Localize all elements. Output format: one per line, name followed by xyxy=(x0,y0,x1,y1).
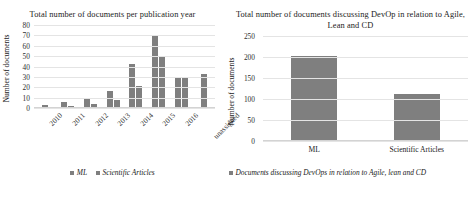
bar xyxy=(182,78,188,107)
bar xyxy=(152,36,158,107)
x-tick-cell: 2010 xyxy=(34,109,57,145)
bar xyxy=(159,57,165,107)
y-tick-label: 50 xyxy=(248,116,255,125)
legend-swatch-icon xyxy=(70,171,74,175)
legend-swatch-icon xyxy=(229,171,233,175)
y-axis-label-left: Number of documents xyxy=(0,25,14,111)
gridline xyxy=(34,25,215,26)
x-tick-cell: unassigned xyxy=(192,109,215,145)
y-tick-label: 0 xyxy=(251,137,255,146)
chart-panel-devops: Total number of documents discussing Dev… xyxy=(225,0,476,202)
y-tick-label: 0 xyxy=(26,104,30,113)
figure-container: Total number of documents per publicatio… xyxy=(0,0,476,202)
y-axis-label-right: Number of documents xyxy=(225,36,239,146)
gridline xyxy=(34,56,215,57)
plot-area-right: Number of documents 050100150200250 MLSc… xyxy=(225,36,476,146)
gridline xyxy=(34,67,215,68)
y-tick-label: 70 xyxy=(23,31,30,40)
bar xyxy=(61,102,67,107)
bar xyxy=(42,105,48,107)
bar-group xyxy=(366,36,469,140)
bar-group xyxy=(263,36,366,140)
y-tick-label: 150 xyxy=(244,74,255,83)
bar xyxy=(68,106,74,107)
bar xyxy=(291,56,337,140)
plot-canvas-left xyxy=(34,25,215,108)
x-tick-label: Scientific Articles xyxy=(366,145,469,154)
bar xyxy=(201,74,207,107)
gridline xyxy=(263,57,468,58)
y-axis-ticks-right: 050100150200250 xyxy=(239,36,257,146)
legend-label: ML xyxy=(77,168,87,178)
gridline xyxy=(263,36,468,37)
gridline xyxy=(34,98,215,99)
y-tick-label: 20 xyxy=(23,83,30,92)
chart-title-right: Total number of documents discussing Dev… xyxy=(225,9,476,31)
bar xyxy=(394,94,440,140)
y-tick-label: 200 xyxy=(244,53,255,62)
plot-area-left: Number of documents 01020304050607080 20… xyxy=(0,25,225,111)
legend-item[interactable]: ML xyxy=(70,168,87,178)
chart-title-left: Total number of documents per publicatio… xyxy=(0,9,225,20)
gridline xyxy=(34,77,215,78)
y-tick-label: 40 xyxy=(23,62,30,71)
bar xyxy=(84,98,90,107)
gridline xyxy=(263,78,468,79)
bar xyxy=(136,86,142,107)
bar-series-right xyxy=(263,36,468,140)
x-tick-cell: 2015 xyxy=(147,109,170,145)
legend-item[interactable]: Documents discussing DevOps in relation … xyxy=(229,168,426,178)
gridline xyxy=(263,120,468,121)
y-tick-label: 30 xyxy=(23,72,30,81)
chart-panel-publication-year: Total number of documents per publicatio… xyxy=(0,0,225,202)
x-tick-cell: 2013 xyxy=(102,109,125,145)
legend-swatch-icon xyxy=(96,171,100,175)
y-tick-label: 10 xyxy=(23,93,30,102)
x-axis-labels-right: MLScientific Articles xyxy=(263,142,468,156)
y-tick-label: 100 xyxy=(244,95,255,104)
plot-canvas-right xyxy=(263,36,468,141)
bar xyxy=(129,64,135,107)
y-tick-label: 80 xyxy=(23,21,30,30)
bar xyxy=(91,104,97,107)
x-tick-cell: 2011 xyxy=(57,109,80,145)
x-tick-label: ML xyxy=(263,145,366,154)
legend-label: Scientific Articles xyxy=(103,168,155,178)
gridline xyxy=(263,99,468,100)
bar xyxy=(107,91,113,107)
legend-right: Documents discussing DevOps in relation … xyxy=(229,168,472,178)
bar xyxy=(175,78,181,107)
x-tick-cell: 2012 xyxy=(79,109,102,145)
y-tick-label: 60 xyxy=(23,41,30,50)
legend-left: MLScientific Articles xyxy=(0,168,225,178)
x-tick-cell: 2014 xyxy=(125,109,148,145)
y-tick-label: 250 xyxy=(244,32,255,41)
x-tick-cell: Scientific Articles xyxy=(366,142,469,156)
x-tick-cell: ML xyxy=(263,142,366,156)
gridline xyxy=(34,46,215,47)
x-tick-cell: 2016 xyxy=(170,109,193,145)
y-tick-label: 50 xyxy=(23,52,30,61)
gridline xyxy=(34,35,215,36)
legend-item[interactable]: Scientific Articles xyxy=(96,168,155,178)
legend-label: Documents discussing DevOps in relation … xyxy=(236,168,427,178)
bar xyxy=(114,100,120,107)
x-axis-labels-left: 2010201120122013201420152016unassigned xyxy=(34,109,215,145)
gridline xyxy=(34,87,215,88)
y-axis-ticks-left: 01020304050607080 xyxy=(14,25,32,111)
